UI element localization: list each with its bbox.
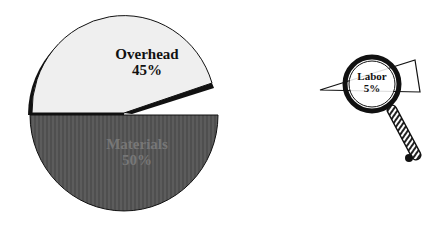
- labor-name: Labor: [350, 71, 394, 83]
- pie-chart: [0, 0, 440, 234]
- label-materials: Materials 50%: [72, 137, 202, 169]
- labor-pct: 5%: [350, 83, 394, 95]
- label-labor: Labor 5%: [350, 71, 394, 94]
- label-overhead: Overhead 45%: [92, 47, 202, 79]
- materials-name: Materials: [72, 137, 202, 153]
- overhead-pct: 45%: [92, 63, 202, 79]
- overhead-name: Overhead: [92, 47, 202, 63]
- materials-pct: 50%: [72, 153, 202, 169]
